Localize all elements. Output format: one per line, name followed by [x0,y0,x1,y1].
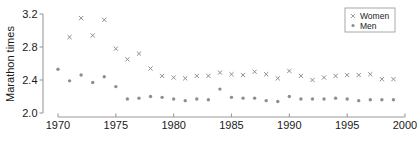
data-point-women [148,66,152,70]
legend-label: Women [360,11,389,21]
data-point-men [79,73,82,76]
data-point-women [195,74,199,78]
data-point-women [276,76,280,80]
data-point-men [137,96,140,99]
data-point-women [345,73,349,77]
data-point-women [322,75,326,79]
marathon-times-scatter-chart: Marathon times 2.02.42.83.2 197019751980… [0,0,417,143]
data-point-women [160,74,164,78]
data-point-women [79,16,83,20]
data-point-men [56,68,59,71]
data-point-women [253,70,257,74]
data-point-women [380,77,384,81]
y-axis-tick-label: 2.8 [22,41,37,53]
y-axis-label-text: Marathon times [4,26,16,102]
data-point-men [392,98,395,101]
data-point-women [91,33,95,37]
data-point-women [357,73,361,77]
data-point-men [241,96,244,99]
y-axis-tick-label: 3.2 [22,8,37,20]
data-point-men [322,97,325,100]
data-point-men [253,96,256,99]
legend-marker-men [351,24,354,27]
data-point-men [126,97,129,100]
data-point-men [299,97,302,100]
data-point-women [114,47,118,51]
chart-legend: WomenMen [345,8,395,32]
data-point-women [391,77,395,81]
data-point-women [229,72,233,76]
y-axis-tick-label: 2.0 [22,107,37,119]
legend-label: Men [360,21,377,31]
data-point-men [357,99,360,102]
data-point-women [206,74,210,78]
data-point-men [68,79,71,82]
x-axis: 1970197519801985199019952000 [46,114,417,131]
data-point-men [369,98,372,101]
x-axis-tick-label: 1990 [277,119,301,131]
data-point-men [380,98,383,101]
data-point-women [102,18,106,22]
data-point-men [218,87,221,90]
x-axis-tick-label: 2000 [393,119,417,131]
x-axis-tick-label: 1995 [335,119,359,131]
data-point-men [265,99,268,102]
data-point-men [288,95,291,98]
data-series-men [56,68,395,104]
data-point-men [207,98,210,101]
chart-figure: Marathon times 2.02.42.83.2 197019751980… [0,0,417,143]
data-point-men [172,97,175,100]
data-point-women [299,74,303,78]
x-axis-tick-label: 1980 [161,119,185,131]
data-point-men [276,100,279,103]
data-point-men [160,96,163,99]
x-axis-tick-label: 1975 [104,119,128,131]
data-point-women [264,72,268,76]
data-point-men [91,81,94,84]
data-point-women [125,57,129,61]
x-axis-tick-label: 1970 [46,119,70,131]
data-point-women [183,76,187,80]
data-point-women [334,74,338,78]
data-point-men [195,97,198,100]
y-axis: 2.02.42.83.2 [22,8,43,119]
data-point-men [114,85,117,88]
data-point-men [230,96,233,99]
data-point-women [368,72,372,76]
y-axis-label: Marathon times [4,26,16,102]
data-point-women [137,52,141,56]
data-point-men [334,96,337,99]
x-axis-tick-label: 1985 [219,119,243,131]
data-point-women [287,69,291,73]
data-point-men [149,95,152,98]
data-point-women [310,78,314,82]
data-point-women [67,35,71,39]
data-point-women [241,73,245,77]
data-point-men [345,97,348,100]
data-point-women [218,70,222,74]
data-point-men [184,99,187,102]
data-point-women [172,75,176,79]
data-point-men [103,75,106,78]
data-point-men [311,97,314,100]
y-axis-tick-label: 2.4 [22,74,37,86]
